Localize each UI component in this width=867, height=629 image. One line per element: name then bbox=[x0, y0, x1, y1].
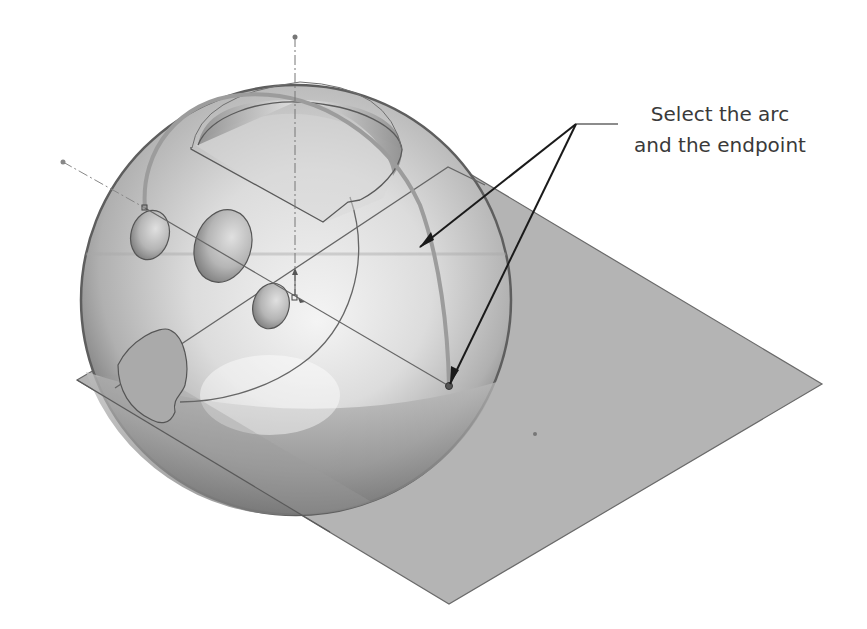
cad-viewport bbox=[0, 0, 867, 629]
callout-line-2: and the endpoint bbox=[585, 130, 855, 161]
callout-line-1: Select the arc bbox=[585, 99, 855, 130]
arc-endpoint[interactable] bbox=[446, 383, 453, 390]
plane-point bbox=[533, 432, 537, 436]
callout-label: Select the arc and the endpoint bbox=[585, 99, 855, 161]
